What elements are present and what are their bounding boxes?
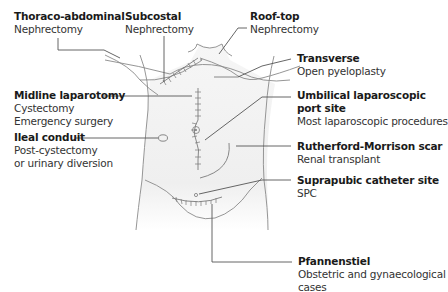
label-rutherford-morrison: Rutherford-Morrison scar Renal transplan… [297,140,442,166]
label-pfannenstiel: Pfannenstiel Obstetric and gynaecologica… [298,255,446,292]
label-title: Roof-top [250,10,319,23]
label-desc: Obstetric and gynaecological [298,268,446,281]
label-subcostal: Subcostal Nephrectomy [125,10,194,36]
label-desc: or urinary diversion [14,157,113,170]
label-desc: SPC [297,187,439,200]
label-thoraco-abdominal: Thoraco-abdominal Nephrectomy [14,10,125,36]
label-umbilical-port: Umbilical laparoscopic port site Most la… [297,89,448,128]
label-title: Ileal conduit [14,131,113,144]
label-title-cont: port site [297,102,448,115]
label-title: Midline laparotomy [14,89,125,102]
label-title: Thoraco-abdominal [14,10,125,23]
label-title: Umbilical laparoscopic [297,89,448,102]
label-desc: Nephrectomy [14,23,125,36]
label-midline-laparotomy: Midline laparotomy Cystectomy Emergency … [14,89,125,128]
label-desc: Emergency surgery [14,115,125,128]
label-desc: Nephrectomy [250,23,319,36]
label-desc: Open pyeloplasty [297,65,386,78]
label-desc: cases [298,281,446,292]
label-desc: Post-cystectomy [14,144,113,157]
label-title: Subcostal [125,10,194,23]
label-suprapubic: Suprapubic catheter site SPC [297,174,439,200]
label-desc: Most laparoscopic procedures [297,115,448,128]
label-title: Rutherford-Morrison scar [297,140,442,153]
label-title: Pfannenstiel [298,255,446,268]
label-desc: Cystectomy [14,102,125,115]
leader-thoraco-abdominal [58,38,120,58]
label-title: Transverse [297,52,386,65]
label-ileal-conduit: Ileal conduit Post-cystectomy or urinary… [14,131,113,170]
label-desc: Renal transplant [297,153,442,166]
label-desc: Nephrectomy [125,23,194,36]
label-roof-top: Roof-top Nephrectomy [250,10,319,36]
label-title: Suprapubic catheter site [297,174,439,187]
label-transverse: Transverse Open pyeloplasty [297,52,386,78]
